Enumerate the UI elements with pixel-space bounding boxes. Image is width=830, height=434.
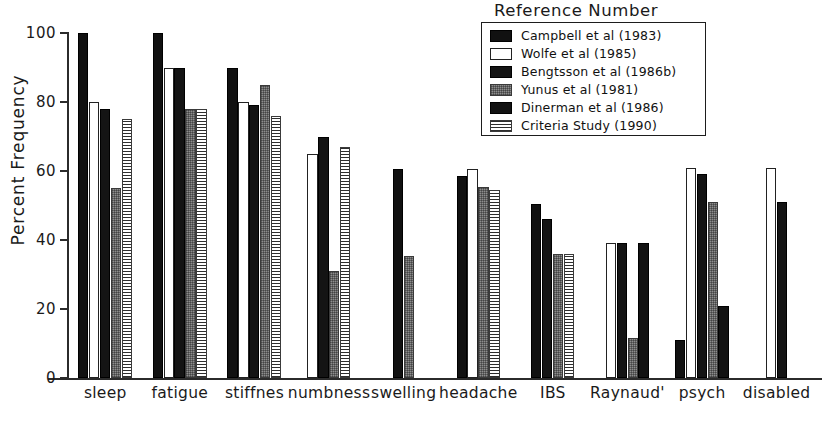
legend-title: Reference Number xyxy=(431,1,721,20)
x-axis-tick-label: disabled xyxy=(729,386,824,402)
legend-swatch-icon xyxy=(490,30,512,42)
legend-item-label: Criteria Study (1990) xyxy=(521,120,657,133)
bar xyxy=(307,154,317,378)
bar xyxy=(553,254,563,378)
y-axis-tick xyxy=(60,239,68,241)
bar xyxy=(271,116,281,378)
bar xyxy=(606,243,616,378)
legend-item: Criteria Study (1990) xyxy=(490,117,705,135)
legend-swatch-icon xyxy=(490,48,512,60)
legend-swatch-icon xyxy=(490,120,512,132)
y-axis-label: Percent Frequency xyxy=(8,10,28,310)
legend-box: Campbell et al (1983)Wolfe et al (1985)B… xyxy=(481,22,706,136)
y-axis-tick xyxy=(60,377,68,379)
legend-swatch-icon xyxy=(490,84,512,96)
legend-item-label: Yunus et al (1981) xyxy=(521,84,638,97)
legend-item: Wolfe et al (1985) xyxy=(490,45,705,63)
bar xyxy=(174,68,184,379)
legend-item: Bengtsson et al (1986b) xyxy=(490,63,705,81)
y-axis-tick-label: 0 xyxy=(8,371,56,386)
bar xyxy=(697,174,707,378)
bar xyxy=(531,204,541,378)
bar xyxy=(467,169,477,378)
bar xyxy=(185,109,195,378)
legend-item-label: Dinerman et al (1986) xyxy=(521,102,664,115)
bar xyxy=(393,169,403,378)
bar xyxy=(718,306,728,378)
bar xyxy=(122,119,132,378)
bar xyxy=(686,168,696,378)
bar xyxy=(478,187,488,378)
y-axis-tick xyxy=(60,101,68,103)
bar xyxy=(153,33,163,378)
bar xyxy=(564,254,574,378)
bar xyxy=(708,202,718,378)
bar xyxy=(78,33,88,378)
bar xyxy=(340,147,350,378)
bar xyxy=(404,256,414,378)
legend-swatch-icon xyxy=(490,102,512,114)
bar xyxy=(628,338,638,378)
bar xyxy=(100,109,110,378)
legend-item: Campbell et al (1983) xyxy=(490,27,705,45)
bar xyxy=(260,85,270,378)
legend-swatch-icon xyxy=(490,66,512,78)
bar xyxy=(638,243,648,378)
bar xyxy=(196,109,206,378)
legend-item-label: Wolfe et al (1985) xyxy=(521,48,637,61)
bar xyxy=(766,168,776,378)
bar xyxy=(457,176,467,378)
legend-item: Dinerman et al (1986) xyxy=(490,99,705,117)
bar xyxy=(675,340,685,378)
bar xyxy=(164,68,174,379)
x-axis-line xyxy=(48,378,822,380)
bar xyxy=(89,102,99,378)
bar xyxy=(238,102,248,378)
bar xyxy=(617,243,627,378)
y-axis-tick xyxy=(60,32,68,34)
bar xyxy=(329,271,339,378)
bar xyxy=(111,188,121,378)
chart-figure: 020406080100 Percent Frequency sleepfati… xyxy=(0,0,830,434)
y-axis-tick xyxy=(60,308,68,310)
legend-item-label: Campbell et al (1983) xyxy=(521,30,661,43)
bar xyxy=(542,219,552,378)
bar xyxy=(227,68,237,379)
y-axis-tick xyxy=(60,170,68,172)
legend-item-label: Bengtsson et al (1986b) xyxy=(521,66,676,79)
bar xyxy=(249,105,259,378)
bar xyxy=(489,190,499,378)
bar xyxy=(318,137,328,379)
legend-item: Yunus et al (1981) xyxy=(490,81,705,99)
bar xyxy=(777,202,787,378)
